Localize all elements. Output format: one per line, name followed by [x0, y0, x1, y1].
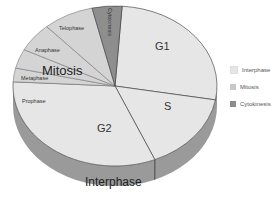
legend-swatch-interphase [230, 66, 238, 74]
legend-label: Interphase [242, 67, 270, 73]
legend-label: Mitosis [240, 84, 259, 90]
slice-label-telophase: Telophase [59, 25, 84, 31]
pie-slice-g1 [115, 6, 217, 100]
slice-label-anaphase: Anaphase [35, 47, 60, 53]
legend-label: Cytokinesis [240, 101, 271, 107]
slice-label-g2: G2 [97, 122, 112, 134]
group-label-mitosis: Mitosis [42, 63, 83, 78]
legend-item-interphase: Interphase [230, 66, 271, 74]
legend-swatch-mitosis [230, 84, 236, 90]
legend: Interphase Mitosis Cytokinesis [230, 66, 271, 117]
slice-label-cytokinesis: Cytokinesis [107, 8, 113, 36]
group-label-interphase: Interphase [85, 175, 142, 189]
slice-label-s: S [164, 100, 171, 112]
slice-label-prophase: Prophase [22, 98, 46, 104]
pie-top [13, 6, 217, 166]
legend-swatch-cytokinesis [230, 101, 236, 107]
legend-item-cytokinesis: Cytokinesis [230, 100, 271, 108]
legend-item-mitosis: Mitosis [230, 83, 271, 91]
slice-label-g1: G1 [155, 40, 170, 52]
